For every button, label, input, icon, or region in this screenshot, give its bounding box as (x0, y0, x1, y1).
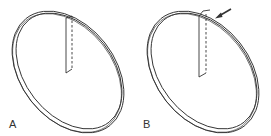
panel-b: B (135, 0, 271, 136)
ring-a-drawing (0, 0, 136, 136)
ring-b-drawing (135, 0, 271, 136)
slot-b-bottom (199, 73, 206, 77)
ring-a-inner-edge (0, 0, 136, 136)
arrow-head-icon (215, 13, 223, 19)
ring-b-inner-edge (135, 0, 271, 136)
slot-a-bottom (66, 69, 72, 73)
panel-label-a: A (9, 118, 16, 130)
panel-label-b: B (143, 118, 150, 130)
panel-a: A (0, 0, 136, 136)
